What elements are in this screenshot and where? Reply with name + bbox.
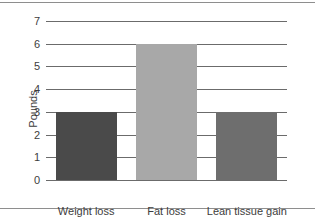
bar-fat-loss: [136, 44, 197, 180]
y-axis-tick-label: 7: [34, 16, 40, 27]
y-axis-tick-label: 6: [34, 38, 40, 49]
x-axis-tick-label: Fat loss: [147, 205, 186, 217]
x-axis-tick-label: Weight loss: [58, 205, 115, 217]
bar-lean-tissue-gain: [216, 112, 277, 180]
y-axis-tick-label: 5: [34, 61, 40, 72]
gridline: [46, 180, 287, 181]
y-axis-tick-label: 4: [34, 84, 40, 95]
y-axis-tick-label: 0: [34, 175, 40, 186]
plot-area: 01234567Weight lossFat lossLean tissue g…: [46, 21, 287, 180]
y-axis-tick-label: 3: [34, 106, 40, 117]
y-axis-tick-label: 2: [34, 129, 40, 140]
y-axis-tick-label: 1: [34, 152, 40, 163]
bar-weight-loss: [56, 112, 117, 180]
top-rule-divider: [0, 2, 315, 3]
x-axis-tick-label: Lean tissue gain: [207, 205, 287, 217]
gridline: [46, 21, 287, 22]
bar-chart-figure: Pounds 01234567Weight lossFat lossLean t…: [0, 0, 315, 217]
